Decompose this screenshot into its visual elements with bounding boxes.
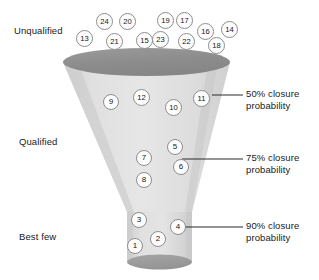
lead-node-2[interactable]: 2: [150, 231, 166, 247]
probability-label-75-line2: probability: [246, 164, 290, 175]
probability-label-75-line1: 75% closure: [246, 152, 299, 163]
lead-node-1[interactable]: 1: [127, 238, 143, 254]
lead-node-13[interactable]: 13: [76, 30, 93, 47]
lead-node-label: 12: [137, 94, 145, 102]
lead-node-4[interactable]: 4: [170, 219, 186, 235]
probability-label-90-line1: 90% closure: [246, 220, 299, 231]
probability-label-50-line2: probability: [246, 100, 290, 111]
probability-label-90-line2: probability: [246, 232, 290, 243]
lead-node-label: 21: [110, 38, 118, 46]
lead-node-19[interactable]: 19: [157, 12, 174, 29]
lead-node-label: 13: [80, 35, 88, 43]
funnel-diagram: Unqualified Qualified Best few 50% closu…: [0, 0, 319, 280]
lead-node-label: 6: [179, 163, 183, 171]
lead-node-label: 7: [142, 154, 146, 162]
lead-node-12[interactable]: 12: [133, 89, 150, 106]
stage-label-unqualified: Unqualified: [14, 25, 63, 36]
lead-node-label: 2: [156, 235, 160, 243]
lead-node-9[interactable]: 9: [103, 94, 119, 110]
probability-label-75: 75% closure probability: [246, 152, 299, 175]
lead-node-17[interactable]: 17: [176, 12, 193, 29]
lead-node-11[interactable]: 11: [193, 90, 210, 107]
lead-node-label: 1: [133, 242, 137, 250]
lead-node-label: 5: [173, 143, 177, 151]
lead-node-18[interactable]: 18: [208, 37, 225, 54]
stage-label-best-few: Best few: [19, 231, 56, 242]
lead-node-label: 22: [182, 38, 190, 46]
lead-node-label: 8: [142, 176, 146, 184]
lead-node-label: 16: [201, 28, 209, 36]
lead-node-label: 15: [140, 37, 148, 45]
lead-node-label: 20: [123, 18, 131, 26]
lead-node-label: 11: [198, 95, 206, 103]
lead-node-20[interactable]: 20: [119, 13, 136, 30]
probability-label-50: 50% closure probability: [246, 88, 299, 111]
lead-node-8[interactable]: 8: [136, 172, 152, 188]
lead-node-5[interactable]: 5: [167, 139, 183, 155]
lead-node-21[interactable]: 21: [106, 33, 123, 50]
lead-node-15[interactable]: 15: [136, 32, 153, 49]
lead-node-label: 23: [156, 36, 164, 44]
lead-node-22[interactable]: 22: [178, 33, 195, 50]
probability-label-90: 90% closure probability: [246, 220, 299, 243]
stage-label-qualified: Qualified: [19, 136, 57, 147]
lead-node-label: 24: [100, 18, 108, 26]
lead-node-label: 10: [169, 104, 177, 112]
lead-node-label: 4: [176, 223, 180, 231]
lead-node-24[interactable]: 24: [96, 13, 113, 30]
lead-node-label: 19: [161, 17, 169, 25]
lead-node-3[interactable]: 3: [131, 212, 147, 228]
lead-node-label: 17: [180, 17, 188, 25]
lead-node-10[interactable]: 10: [165, 99, 182, 116]
lead-node-6[interactable]: 6: [173, 159, 189, 175]
lead-node-label: 9: [109, 98, 113, 106]
lead-node-23[interactable]: 23: [152, 31, 169, 48]
lead-node-label: 3: [137, 216, 141, 224]
lead-node-7[interactable]: 7: [136, 150, 152, 166]
lead-node-label: 18: [212, 42, 220, 50]
probability-label-50-line1: 50% closure: [246, 88, 299, 99]
lead-node-label: 14: [225, 26, 233, 34]
lead-node-14[interactable]: 14: [221, 21, 238, 38]
